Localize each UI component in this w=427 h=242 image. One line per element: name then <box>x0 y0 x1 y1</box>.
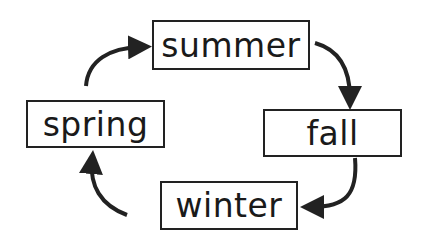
arrow-summer-to-fall <box>315 43 350 98</box>
node-label: fall <box>306 114 358 153</box>
node-spring: spring <box>26 100 165 148</box>
node-fall: fall <box>263 109 402 157</box>
arrow-fall-to-winter <box>312 158 355 207</box>
node-label: spring <box>43 105 149 144</box>
arrow-spring-to-summer <box>86 47 140 86</box>
arrow-winter-to-spring <box>92 162 127 215</box>
node-label: summer <box>161 26 300 65</box>
node-summer: summer <box>152 20 310 70</box>
node-winter: winter <box>160 181 298 230</box>
node-label: winter <box>176 186 283 225</box>
